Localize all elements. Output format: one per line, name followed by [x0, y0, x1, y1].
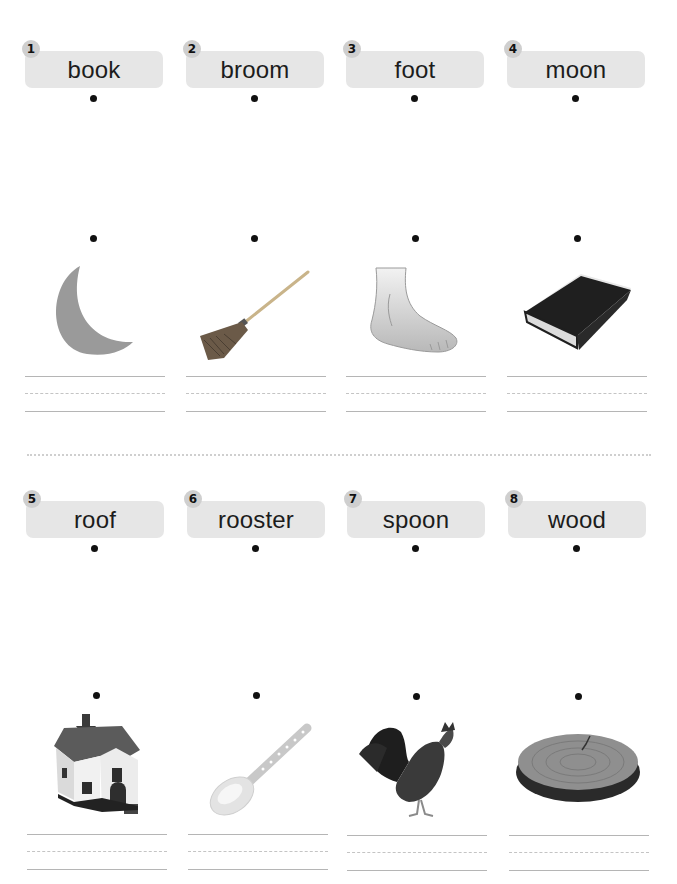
writing-lines-8[interactable]	[509, 835, 649, 871]
writing-lines-1[interactable]	[25, 376, 165, 412]
broom-image	[186, 258, 326, 368]
match-dot-word-5[interactable]	[91, 545, 98, 552]
writing-lines-7[interactable]	[347, 835, 487, 871]
match-dot-word-6[interactable]	[252, 545, 259, 552]
writing-lines-3[interactable]	[346, 376, 486, 412]
word-text: roof	[26, 501, 164, 538]
number-badge: 6	[184, 490, 202, 508]
match-dot-word-7[interactable]	[412, 545, 419, 552]
section-separator	[27, 454, 651, 456]
number-badge: 8	[505, 490, 523, 508]
moon-image	[25, 258, 165, 368]
number-badge: 1	[22, 40, 40, 58]
word-label-1: book 1	[25, 40, 165, 88]
match-dot-picture-7[interactable]	[413, 693, 420, 700]
match-dot-picture-2[interactable]	[251, 235, 258, 242]
word-text: rooster	[187, 501, 325, 538]
number-badge: 3	[343, 40, 361, 58]
rooster-image	[347, 712, 487, 822]
word-text: foot	[346, 51, 484, 88]
foot-image	[346, 258, 486, 368]
word-label-7: spoon 7	[347, 490, 487, 538]
writing-lines-4[interactable]	[507, 376, 647, 412]
writing-lines-5[interactable]	[27, 834, 167, 870]
word-label-8: wood 8	[508, 490, 648, 538]
wood-slice-image	[508, 712, 648, 822]
match-dot-picture-1[interactable]	[90, 235, 97, 242]
book-image	[507, 258, 647, 368]
match-dot-word-2[interactable]	[251, 95, 258, 102]
word-label-4: moon 4	[507, 40, 647, 88]
match-dot-picture-3[interactable]	[412, 235, 419, 242]
spoon-image	[187, 712, 327, 822]
match-dot-word-3[interactable]	[411, 95, 418, 102]
house-roof-image	[26, 712, 166, 822]
word-text: wood	[508, 501, 646, 538]
match-dot-picture-4[interactable]	[574, 235, 581, 242]
match-dot-word-8[interactable]	[573, 545, 580, 552]
writing-lines-2[interactable]	[186, 376, 326, 412]
word-text: book	[25, 51, 163, 88]
match-dot-word-4[interactable]	[572, 95, 579, 102]
match-dot-picture-6[interactable]	[253, 692, 260, 699]
word-label-3: foot 3	[346, 40, 486, 88]
match-dot-word-1[interactable]	[90, 95, 97, 102]
match-dot-picture-5[interactable]	[93, 692, 100, 699]
word-label-5: roof 5	[26, 490, 166, 538]
word-text: moon	[507, 51, 645, 88]
writing-lines-6[interactable]	[188, 834, 328, 870]
word-label-2: broom 2	[186, 40, 326, 88]
match-dot-picture-8[interactable]	[575, 693, 582, 700]
number-badge: 5	[23, 490, 41, 508]
word-text: spoon	[347, 501, 485, 538]
word-text: broom	[186, 51, 324, 88]
number-badge: 4	[504, 40, 522, 58]
number-badge: 7	[344, 490, 362, 508]
word-label-6: rooster 6	[187, 490, 327, 538]
number-badge: 2	[183, 40, 201, 58]
